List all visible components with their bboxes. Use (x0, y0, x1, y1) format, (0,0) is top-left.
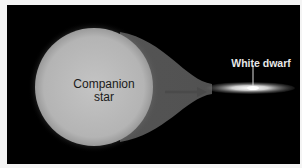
companion-star-label-line2: star (64, 91, 144, 104)
companion-star-label: Companion star (64, 78, 144, 104)
white-dwarf-label: White dwarf (225, 58, 297, 70)
diagram-panel: Companion star White dwarf (7, 5, 300, 164)
diagram-graphic (7, 5, 300, 164)
white-dwarf (247, 86, 259, 90)
